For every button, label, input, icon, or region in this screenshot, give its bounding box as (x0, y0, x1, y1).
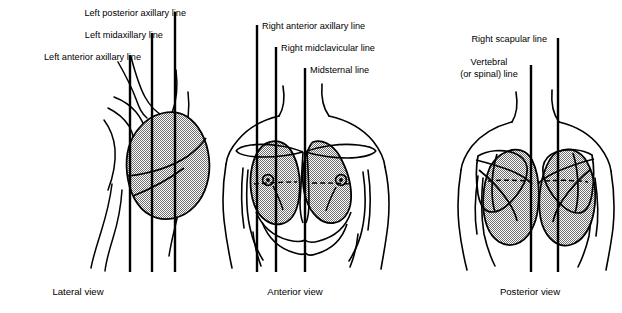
label-right-anterior-axillary-line: Right anterior axillary line (262, 21, 365, 32)
label-right-midclavicular-line: Right midclavicular line (281, 43, 375, 54)
label-midsternal-line: Midsternal line (310, 65, 369, 76)
caption-posterior-view: Posterior view (470, 286, 590, 297)
label-left-anterior-axillary-line: Left anterior axillary line (44, 52, 141, 63)
posterior-lung-left (539, 149, 595, 245)
panel-lateral (91, 12, 209, 272)
label-left-midaxillary-line: Left midaxillary line (85, 30, 163, 41)
label-vertebral-line-line2: (or spinal) line (429, 69, 549, 80)
label-left-posterior-axillary-line: Left posterior axillary line (84, 8, 186, 19)
label-right-scapular-line: Right scapular line (471, 34, 547, 45)
label-vertebral-line-line1: Vertebral (429, 57, 549, 68)
caption-anterior-view: Anterior view (235, 286, 355, 297)
caption-lateral-view: Lateral view (18, 286, 138, 297)
panel-anterior (223, 25, 389, 272)
